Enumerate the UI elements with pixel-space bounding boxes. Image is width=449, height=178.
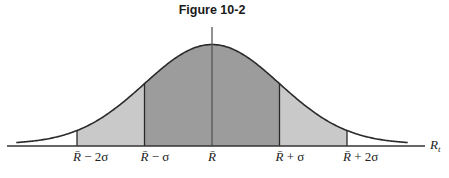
tick-label: R̄ [207,149,216,164]
tick-label: R̄ − 2σ [72,149,108,164]
normal-distribution-chart: R̄ − 2σR̄ − σR̄R̄ + σR̄ + 2σ Rt [0,0,449,178]
x-axis-label: Rt [429,137,441,154]
tick-label: R̄ + 2σ [342,149,378,164]
tick-labels: R̄ − 2σR̄ − σR̄R̄ + σR̄ + 2σ [72,149,378,164]
tick-label: R̄ + σ [275,149,305,164]
tick-label: R̄ − σ [140,149,170,164]
